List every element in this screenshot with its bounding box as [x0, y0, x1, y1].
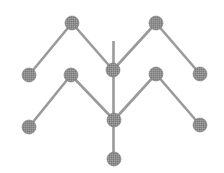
- graph-node-lower-center: [107, 113, 121, 127]
- graph-edge: [156, 23, 200, 74]
- graph-edge: [72, 23, 113, 70]
- graph-node-upper-left-end: [22, 68, 36, 82]
- edges-layer: [29, 23, 200, 159]
- graph-node-lower-left-end: [22, 120, 36, 134]
- graph-edge: [29, 23, 72, 75]
- graph-node-lower-right-peak: [149, 67, 163, 81]
- graph-edge: [114, 74, 156, 120]
- graph-edge: [71, 75, 114, 120]
- graph-edge: [29, 75, 71, 127]
- graph-node-lower-left-peak: [64, 68, 78, 82]
- graph-node-upper-right-end: [193, 67, 207, 81]
- graph-edge: [156, 74, 200, 125]
- graph-node-bottom: [107, 152, 121, 166]
- graph-edge: [113, 23, 156, 70]
- graph-node-lower-right-end: [193, 118, 207, 132]
- graph-node-upper-center: [106, 63, 120, 77]
- graph-node-top-right-peak: [149, 16, 163, 30]
- graph-node-top-left-peak: [65, 16, 79, 30]
- graph-diagram: [0, 0, 224, 173]
